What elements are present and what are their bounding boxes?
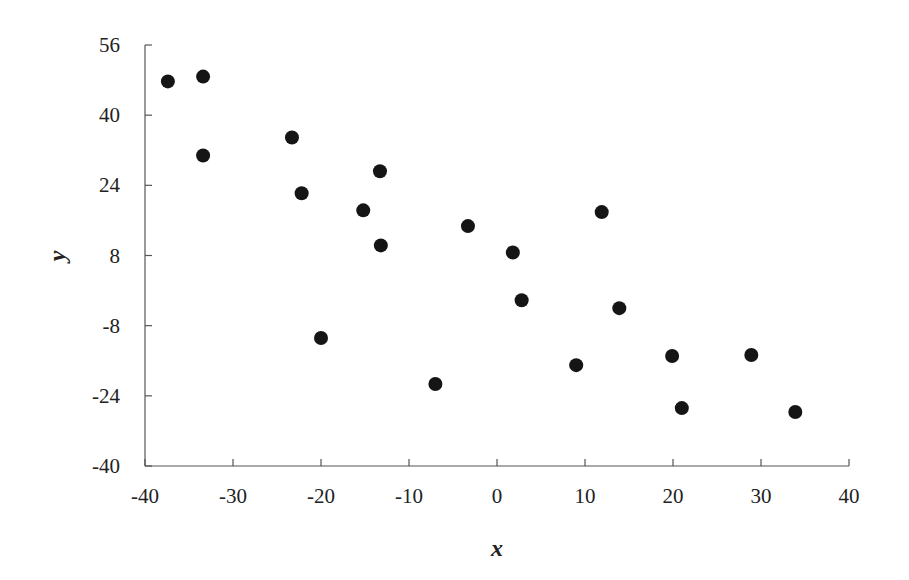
data-point <box>196 149 210 163</box>
data-point <box>161 74 175 88</box>
y-tick-label: -40 <box>92 454 120 478</box>
x-tick-label: -10 <box>395 484 423 508</box>
y-tick-label: 40 <box>99 103 120 127</box>
scatter-chart: -40-30-20-10010203040 -40-24-88244056 x … <box>0 0 909 580</box>
data-point <box>461 219 475 233</box>
data-point <box>515 293 529 307</box>
y-axis-ticks: -40-24-88244056 <box>92 33 152 478</box>
data-point <box>295 186 309 200</box>
data-point <box>665 349 679 363</box>
data-point <box>314 331 328 345</box>
x-axis-label: x <box>490 535 503 561</box>
data-point <box>356 203 370 217</box>
data-point <box>788 405 802 419</box>
x-tick-label: 10 <box>575 484 596 508</box>
data-point <box>196 70 210 84</box>
y-tick-label: 24 <box>99 173 121 197</box>
data-point <box>612 301 626 315</box>
y-tick-label: -8 <box>103 314 121 338</box>
axes <box>145 45 849 466</box>
x-tick-label: -20 <box>307 484 335 508</box>
data-point <box>285 131 299 145</box>
y-tick-label: 56 <box>99 33 120 57</box>
data-point <box>374 238 388 252</box>
y-tick-label: -24 <box>92 384 120 408</box>
x-tick-label: 20 <box>663 484 684 508</box>
data-point <box>744 348 758 362</box>
x-tick-label: -30 <box>219 484 247 508</box>
data-point <box>428 377 442 391</box>
x-tick-label: 0 <box>492 484 503 508</box>
data-point <box>675 401 689 415</box>
data-point <box>373 164 387 178</box>
x-tick-label: 30 <box>751 484 772 508</box>
x-tick-label: -40 <box>131 484 159 508</box>
data-points <box>161 70 802 419</box>
data-point <box>569 358 583 372</box>
data-point <box>595 205 609 219</box>
x-tick-label: 40 <box>839 484 860 508</box>
data-point <box>506 245 520 259</box>
y-tick-label: 8 <box>110 244 121 268</box>
y-axis-label: y <box>44 250 70 264</box>
